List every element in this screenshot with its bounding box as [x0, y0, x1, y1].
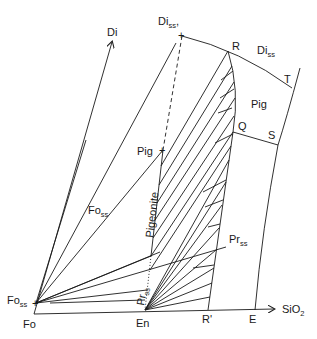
label-pig-field: Pig — [251, 98, 267, 110]
diagram-canvas: + + + Di Diss, R Diss T Pig Q S Pig Foss… — [0, 0, 317, 339]
label-fo-ss-mid: Foss — [88, 204, 109, 219]
label-sio2: SiO2 — [282, 303, 305, 318]
fo-ss-tie-lines — [36, 43, 226, 303]
label-e: E — [249, 313, 256, 325]
label-fo-ss-left: Foss — [7, 294, 28, 309]
di-ss-dashed-line — [163, 36, 182, 150]
label-di: Di — [107, 26, 117, 38]
label-fo: Fo — [23, 318, 36, 330]
label-en: En — [136, 317, 149, 329]
label-pig-point: Pig — [137, 145, 153, 157]
label-di-ss-right: Diss — [257, 44, 275, 59]
en-tie-lines — [145, 160, 229, 310]
label-s: S — [268, 129, 275, 141]
label-di-ss-top: Diss, — [158, 15, 179, 30]
label-pr-ss-right: Prss — [229, 233, 248, 248]
label-r-prime: R' — [202, 313, 212, 325]
phase-diagram: + + + Di Diss, R Diss T Pig Q S Pig Foss… — [0, 0, 317, 339]
pigeonite-tie-lines — [150, 51, 235, 270]
fo-ss-plus-marker: + — [32, 297, 38, 309]
label-q: Q — [238, 120, 247, 132]
label-t: T — [284, 73, 291, 85]
di-ss-plus-marker: + — [178, 29, 184, 41]
di-axis — [34, 42, 112, 314]
pig-plus-marker: + — [159, 144, 165, 156]
sio2-axis — [34, 309, 274, 314]
label-r: R — [232, 40, 240, 52]
